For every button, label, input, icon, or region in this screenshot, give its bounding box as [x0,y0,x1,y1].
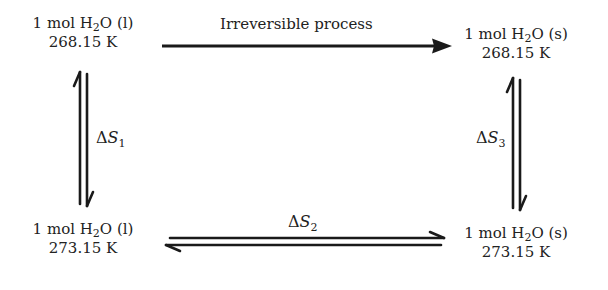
left-equilibrium-harpoons [74,72,93,206]
irreversible-arrow [162,39,452,54]
arrows-layer [0,0,608,290]
bottom-equilibrium-harpoons [166,232,444,251]
right-equilibrium-harpoons [507,78,526,210]
